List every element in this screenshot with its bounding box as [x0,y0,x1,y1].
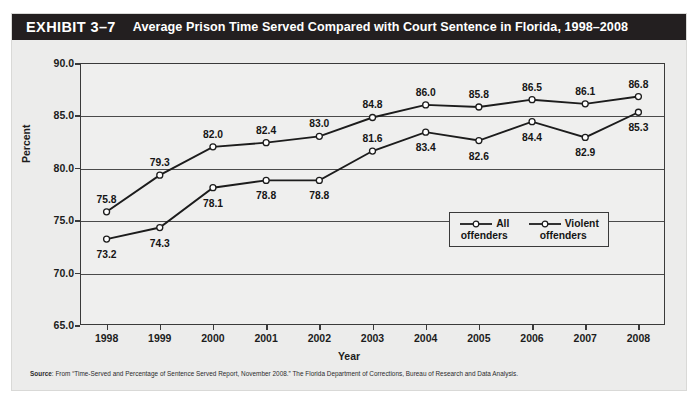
legend-label-violent-line1: Violent [565,218,599,229]
data-point-label: 75.8 [97,193,117,204]
data-point-label: 84.4 [522,131,542,142]
x-tick-label: 2006 [520,332,543,344]
source-text: : From “Time-Served and Percentage of Se… [52,370,518,377]
data-point-label: 79.3 [150,157,170,168]
y-tick-mark [75,63,80,65]
y-tick-mark [75,168,80,170]
exhibit-figure: EXHIBIT 3–7 Average Prison Time Served C… [0,0,698,405]
y-tick-label: 90.0 [28,57,74,69]
x-tick-mark [213,325,215,330]
x-tick-label: 2000 [201,332,224,344]
gridline [81,116,664,117]
y-tick-mark [75,325,80,327]
y-axis-title: Percent [20,124,32,163]
y-tick-label: 80.0 [28,162,74,174]
y-tick-mark [75,115,80,117]
chart-legend: All offenders Violent offenders [449,212,609,247]
data-point-label: 83.4 [416,142,436,153]
data-point-label: 82.6 [469,150,489,161]
x-tick-mark [160,325,162,330]
legend-marker-row-all: All [459,218,509,229]
data-point-label: 85.3 [628,122,648,133]
legend-item-violent-offenders: Violent offenders [528,218,599,240]
x-tick-label: 2003 [361,332,384,344]
exhibit-number: EXHIBIT 3–7 [12,19,116,35]
x-tick-label: 1999 [148,332,171,344]
data-point-label: 84.8 [362,99,382,110]
x-tick-label: 2007 [574,332,597,344]
legend-line-icon-violent [528,219,562,229]
exhibit-header-bar: EXHIBIT 3–7 Average Prison Time Served C… [12,14,686,40]
x-tick-label: 2001 [254,332,277,344]
x-tick-label: 2004 [414,332,437,344]
source-note: Source: From “Time-Served and Percentage… [30,370,670,377]
legend-marker-row-violent: Violent [528,218,599,229]
x-tick-mark [426,325,428,330]
y-tick-label: 70.0 [28,267,74,279]
y-tick-label: 75.0 [28,214,74,226]
x-tick-label: 1998 [95,332,118,344]
legend-label-all-line2: offenders [461,230,508,241]
data-point-label: 78.8 [309,190,329,201]
data-point-label: 82.4 [256,124,276,135]
x-tick-mark [373,325,375,330]
data-point-label: 78.8 [256,190,276,201]
x-tick-label: 2002 [308,332,331,344]
data-point-label: 83.0 [309,118,329,129]
legend-label-violent-line2: offenders [540,230,587,241]
data-point-label: 86.8 [628,78,648,89]
data-point-label: 86.5 [522,81,542,92]
legend-item-all-offenders: All offenders [459,218,509,240]
y-tick-mark [75,220,80,222]
x-tick-mark [585,325,587,330]
x-tick-mark [107,325,109,330]
y-tick-label: 85.0 [28,109,74,121]
data-point-label: 82.0 [203,128,223,139]
data-point-label: 73.2 [97,249,117,260]
data-point-label: 74.3 [150,237,170,248]
gridline [81,169,664,170]
x-tick-mark [319,325,321,330]
x-axis-title: Year [0,350,698,362]
x-tick-label: 2005 [467,332,490,344]
source-prefix: Source [30,370,52,377]
x-tick-label: 2008 [627,332,650,344]
legend-label-all-line1: All [496,218,509,229]
data-point-label: 85.8 [469,89,489,100]
x-tick-mark [266,325,268,330]
y-tick-mark [75,273,80,275]
data-point-label: 86.1 [575,85,595,96]
data-point-label: 86.0 [416,86,436,97]
y-tick-label: 65.0 [28,319,74,331]
gridline [81,274,664,275]
data-point-label: 81.6 [362,133,382,144]
x-tick-mark [532,325,534,330]
x-tick-mark [479,325,481,330]
x-tick-mark [638,325,640,330]
data-point-label: 78.1 [203,197,223,208]
exhibit-title: Average Prison Time Served Compared with… [116,20,628,34]
data-point-label: 82.9 [575,147,595,158]
legend-line-icon-all [459,219,493,229]
